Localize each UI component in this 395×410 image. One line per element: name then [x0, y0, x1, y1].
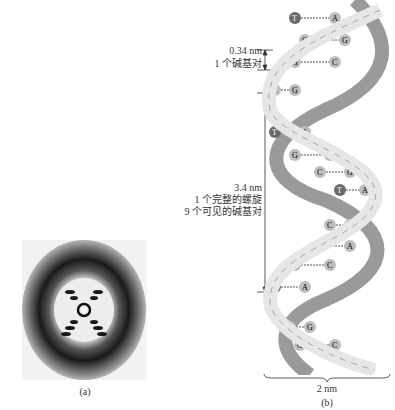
xray-diffraction-image: [22, 240, 147, 380]
turn-label-line2: 9 个可见的碱基对: [170, 206, 262, 218]
helix-graphic: TA CG GC CG TA GC CG TA CG TA GC TA CG G…: [255, 0, 395, 375]
svg-text:A: A: [302, 283, 308, 292]
rise-label: 1 个碱基对: [200, 58, 262, 70]
turn-label-line1: 1 个完整的螺旋: [170, 194, 262, 206]
svg-text:A: A: [332, 14, 338, 23]
svg-text:A: A: [347, 242, 353, 251]
svg-text:G: G: [307, 323, 313, 332]
xray-pattern-graphic: [22, 240, 147, 380]
svg-text:C: C: [327, 221, 332, 230]
width-value: 2 nm: [307, 383, 347, 394]
rise-value: 0.34 nm: [200, 45, 262, 57]
svg-text:G: G: [292, 151, 298, 160]
svg-text:T: T: [337, 186, 342, 195]
svg-text:T: T: [292, 14, 297, 23]
panel-a-caption: (a): [70, 386, 100, 397]
svg-text:G: G: [342, 36, 348, 45]
turn-value: 3.4 nm: [170, 182, 262, 194]
dna-double-helix: TA CG GC CG TA GC CG TA CG TA GC TA CG G…: [255, 0, 395, 375]
svg-text:C: C: [332, 58, 337, 67]
svg-text:C: C: [327, 261, 332, 270]
panel-b-caption: (b): [312, 397, 342, 408]
svg-text:T: T: [272, 128, 277, 137]
svg-text:G: G: [292, 86, 298, 95]
svg-text:C: C: [317, 168, 322, 177]
